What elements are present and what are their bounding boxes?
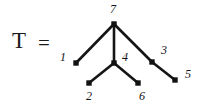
- node-label-3: 3: [161, 44, 167, 56]
- node-label-4: 4: [122, 51, 128, 63]
- tree-graphic: [0, 0, 203, 109]
- node-label-2: 2: [86, 90, 92, 102]
- tree-edge: [114, 63, 138, 83]
- node-label-7: 7: [110, 3, 116, 15]
- tree-edge: [152, 62, 175, 80]
- tree-edge: [76, 24, 114, 63]
- tree-node-6: [135, 80, 140, 85]
- tree-node-1: [73, 60, 78, 65]
- tree-node-7: [111, 21, 116, 26]
- tree-node-4: [111, 60, 116, 65]
- node-label-5: 5: [185, 68, 191, 80]
- node-label-6: 6: [139, 90, 145, 102]
- tree-node-3: [149, 59, 154, 64]
- tree-edge: [114, 24, 152, 62]
- node-label-1: 1: [60, 51, 66, 63]
- tree-node-2: [86, 80, 91, 85]
- tree-node-5: [172, 77, 177, 82]
- tree-edge: [89, 63, 114, 83]
- tree-figure: T = 7143265: [0, 0, 203, 109]
